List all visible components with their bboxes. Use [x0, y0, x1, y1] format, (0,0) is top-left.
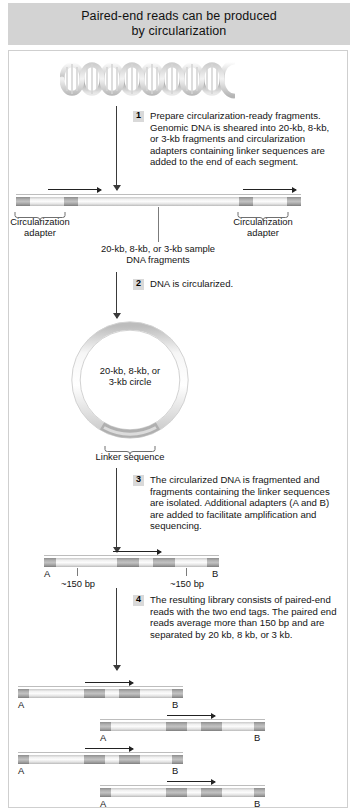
library-read-bar-3 [18, 755, 183, 764]
step-4-text: The resulting library consists of paired… [150, 594, 338, 640]
dna-helix-icon [60, 54, 235, 104]
sequencing-fragment-bar [44, 558, 219, 567]
read-arrow-4 [167, 778, 215, 785]
read-arrow-1 [85, 679, 133, 686]
connector-arrow-3 [111, 468, 122, 552]
library-read-2-adapter-a: A [100, 733, 106, 743]
circularized-dna-diagram: 20-kb, 8-kb, or 3-kb circle [65, 318, 195, 448]
connector-arrow-2 [111, 272, 122, 318]
read-direction-arrow-step3 [113, 548, 161, 555]
label-adapter-right-line1: Circularization [229, 216, 297, 227]
step-1: 1 Prepare circularization-ready fragment… [133, 110, 338, 168]
tick-bp-right [186, 568, 187, 576]
label-adapter-left-line1: Circularization [6, 216, 74, 227]
page-title: Paired-end reads can be produced by circ… [81, 9, 277, 39]
label-dna-fragments-line1: 20-kb, 8-kb, or 3-kb sample [48, 243, 268, 254]
step-1-number: 1 [133, 111, 144, 122]
tick-bp-left [77, 568, 78, 576]
library-read-2-adapter-b: B [254, 733, 260, 743]
label-circle-line1: 20-kb, 8-kb, or [65, 365, 195, 376]
label-circle-line2: 3-kb circle [65, 376, 195, 387]
label-dna-fragments: 20-kb, 8-kb, or 3-kb sample DNA fragment… [48, 243, 268, 266]
library-read-1-adapter-b: B [172, 700, 178, 710]
library-read-bar-4 [100, 788, 265, 797]
title-line-2: by circularization [81, 24, 277, 39]
step-4-number: 4 [133, 595, 144, 606]
label-adapter-left: Circularization adapter [6, 216, 74, 239]
library-read-4-adapter-b: B [254, 799, 260, 809]
label-bp-left: ~150 bp [48, 578, 108, 589]
label-adapter-right-line2: adapter [229, 227, 297, 238]
library-read-1-adapter-a: A [18, 700, 24, 710]
label-adapter-left-line2: adapter [6, 227, 74, 238]
read-arrow-2 [167, 712, 215, 719]
label-bp-right: ~150 bp [157, 578, 217, 589]
connector-arrow-4 [111, 588, 122, 670]
figure-header: Paired-end reads can be produced by circ… [8, 3, 350, 45]
library-read-bar-1 [18, 689, 183, 698]
step-3: 3 The circularized DNA is fragmented and… [133, 474, 338, 532]
connector-arrow-1 [111, 106, 122, 190]
fragment-leader-line [158, 207, 159, 242]
library-read-4-adapter-a: A [100, 799, 106, 809]
label-adapter-right: Circularization adapter [229, 216, 297, 239]
read-direction-arrow-right [243, 186, 296, 193]
read-direction-arrow-left [48, 186, 101, 193]
label-circle-size: 20-kb, 8-kb, or 3-kb circle [65, 365, 195, 388]
library-read-bar-2 [100, 722, 265, 731]
figure-root: Paired-end reads can be produced by circ… [0, 0, 358, 812]
library-read-3-adapter-a: A [18, 766, 24, 776]
step-2: 2 DNA is circularized. [133, 278, 338, 290]
step-3-number: 3 [133, 475, 144, 486]
title-line-1: Paired-end reads can be produced [81, 9, 277, 24]
library-read-3-adapter-b: B [172, 766, 178, 776]
dna-fragment-bar [16, 197, 301, 206]
read-arrow-3 [85, 745, 133, 752]
step-1-text: Prepare circularization-ready fragments.… [150, 110, 338, 168]
step-4: 4 The resulting library consists of pair… [133, 594, 338, 640]
step-3-text: The circularized DNA is fragmented and f… [150, 474, 338, 532]
label-dna-fragments-line2: DNA fragments [48, 254, 268, 265]
label-linker-sequence: Linker sequence [80, 451, 180, 462]
step-2-text: DNA is circularized. [150, 278, 338, 290]
step-2-number: 2 [133, 279, 144, 290]
